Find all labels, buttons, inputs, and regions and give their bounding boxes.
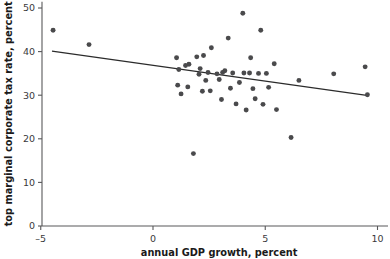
data-point bbox=[175, 83, 180, 88]
x-tick-label-5: 5 bbox=[262, 233, 268, 244]
data-point bbox=[296, 78, 301, 83]
y-tick-label-30: 30 bbox=[23, 90, 35, 101]
data-point bbox=[226, 36, 231, 41]
data-points-group bbox=[51, 11, 370, 156]
data-point bbox=[217, 77, 222, 82]
data-point bbox=[200, 89, 205, 94]
data-point bbox=[228, 86, 233, 91]
x-tick-label--5: –5 bbox=[35, 233, 46, 244]
data-point bbox=[185, 84, 190, 89]
y-tick-label-10: 10 bbox=[23, 177, 35, 188]
data-point bbox=[230, 71, 235, 76]
data-point bbox=[258, 28, 263, 33]
data-point bbox=[194, 54, 199, 59]
data-point bbox=[237, 80, 242, 85]
data-point bbox=[201, 53, 206, 58]
data-point bbox=[261, 102, 266, 107]
data-point bbox=[176, 67, 181, 72]
data-point bbox=[203, 78, 208, 83]
data-point bbox=[256, 71, 261, 76]
data-point bbox=[240, 11, 245, 16]
data-point bbox=[247, 71, 252, 76]
data-point bbox=[197, 72, 202, 77]
data-point bbox=[209, 45, 214, 50]
data-point bbox=[264, 71, 269, 76]
data-point bbox=[266, 85, 271, 90]
data-point bbox=[219, 97, 224, 102]
data-point bbox=[191, 151, 196, 156]
data-point bbox=[289, 135, 294, 140]
data-point bbox=[222, 68, 227, 73]
data-point bbox=[244, 108, 249, 113]
data-point bbox=[365, 92, 370, 97]
chart-canvas: 01020304050–50510annual GDP growth, perc… bbox=[0, 0, 390, 259]
data-point bbox=[215, 71, 220, 76]
x-axis-title: annual GDP growth, percent bbox=[141, 247, 298, 258]
data-point bbox=[186, 62, 191, 67]
y-tick-label-0: 0 bbox=[29, 220, 35, 231]
data-point bbox=[248, 55, 253, 60]
y-tick-label-50: 50 bbox=[23, 2, 35, 13]
data-point bbox=[206, 70, 211, 75]
data-point bbox=[253, 96, 258, 101]
x-tick-label-10: 10 bbox=[371, 233, 383, 244]
y-tick-label-40: 40 bbox=[23, 46, 35, 57]
data-point bbox=[241, 71, 246, 76]
data-point bbox=[174, 55, 179, 60]
data-point bbox=[331, 71, 336, 76]
y-tick-label-20: 20 bbox=[23, 133, 35, 144]
data-point bbox=[234, 101, 239, 106]
data-point bbox=[250, 86, 255, 91]
data-point bbox=[363, 64, 368, 69]
scatter-plot-figure: 01020304050–50510annual GDP growth, perc… bbox=[0, 0, 390, 259]
data-point bbox=[87, 42, 92, 47]
data-point bbox=[179, 91, 184, 96]
data-point bbox=[208, 88, 213, 93]
data-point bbox=[198, 66, 203, 71]
data-point bbox=[272, 61, 277, 66]
x-tick-label-0: 0 bbox=[150, 233, 156, 244]
data-point bbox=[51, 28, 56, 33]
data-point bbox=[274, 107, 279, 112]
y-axis-title: top marginal corporate tax rate, percent bbox=[3, 1, 14, 226]
